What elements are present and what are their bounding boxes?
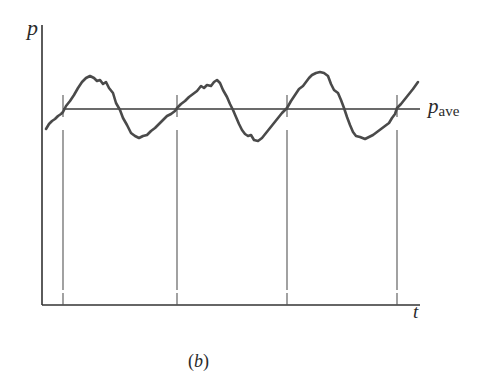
x-axis-label: t bbox=[413, 302, 418, 321]
plot-area bbox=[0, 0, 479, 383]
figure-caption: (b) bbox=[188, 352, 209, 370]
pressure-waveform bbox=[46, 72, 418, 141]
caption-letter: b bbox=[194, 351, 203, 371]
y-axis-label: p bbox=[27, 17, 38, 39]
average-label-subscript: ave bbox=[439, 103, 460, 119]
pressure-waveform-figure: p t pave (b) bbox=[0, 0, 479, 383]
period-marker-lines bbox=[63, 95, 397, 305]
average-line-label: pave bbox=[428, 96, 459, 117]
average-label-main: p bbox=[428, 94, 439, 118]
caption-close-paren: ) bbox=[203, 351, 209, 371]
